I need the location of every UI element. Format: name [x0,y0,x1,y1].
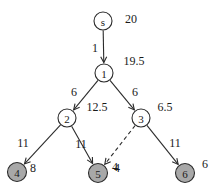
nodes-layer: s123456 [8,12,195,183]
node-value-labels-layer: 2019.512.56.5846 [30,12,208,175]
edge-weight-2-to-5: 11 [75,137,87,151]
edge-weight-s-to-1: 1 [92,41,98,55]
node-3-value: 6.5 [158,100,173,114]
graph-svg: 1661111411 s123456 2019.512.56.5846 [0,0,213,192]
node-5-label: 5 [95,168,101,180]
edges-layer [24,30,178,164]
node-6-value: 6 [202,157,208,171]
node-4-label: 4 [14,167,20,179]
node-4-value: 8 [30,161,36,175]
edge-weight-3-to-6: 11 [169,136,181,150]
node-s-label: s [101,16,105,28]
node-3-label: 3 [138,113,144,125]
node-5-value: 4 [112,160,118,174]
node-1-value: 19.5 [124,54,145,68]
edge-3-to-5 [105,125,135,164]
edge-s-to-1 [103,30,104,62]
edge-1-to-3 [110,80,134,110]
node-2-value: 12.5 [87,100,108,114]
node-2-label: 2 [64,113,70,125]
node-s-value: 20 [125,12,137,26]
node-1-label: 1 [101,68,107,80]
node-6-label: 6 [182,168,188,180]
edge-2-to-4 [24,125,60,164]
edge-weight-1-to-2: 6 [71,85,77,99]
edge-weight-1-to-3: 6 [132,85,138,99]
graph-diagram-canvas: 1661111411 s123456 2019.512.56.5846 [0,0,213,192]
edge-weight-2-to-4: 11 [17,136,29,150]
